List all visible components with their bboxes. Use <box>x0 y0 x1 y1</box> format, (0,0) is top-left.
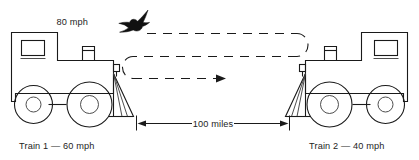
train-left-cowcatcher <box>114 74 134 117</box>
train-left-front-wheel-hub <box>81 96 99 114</box>
distance-arrowhead-right <box>280 120 289 126</box>
train-right-cab-window <box>375 41 398 56</box>
distance-label: 100 miles <box>193 119 234 129</box>
train-left-smokestack <box>83 47 95 61</box>
train-left-group <box>12 33 134 128</box>
train-right-front-wheel <box>307 82 352 127</box>
train-right-cab-outline <box>306 33 408 102</box>
train-left-front-wheel <box>67 82 112 127</box>
train-right-cowcatcher <box>286 74 306 117</box>
train-right-group <box>286 33 408 128</box>
train-right-label: Train 2 — 40 mph <box>309 141 385 151</box>
train-bird-diagram: 100 miles 80 mph Train 1 — 60 mph Train … <box>0 0 419 160</box>
flight-path-left-turn <box>123 57 134 79</box>
train-right-coupler <box>300 65 306 72</box>
train-left-label: Train 1 — 60 mph <box>19 141 95 151</box>
bird-silhouette-icon <box>119 10 150 32</box>
flight-path-arrowhead <box>216 75 226 83</box>
bird-speed-label: 80 mph <box>56 17 88 27</box>
train-right-rear-wheel <box>367 86 405 124</box>
train-right-rear-wheel-hub <box>378 97 393 112</box>
train-right-smokestack <box>325 47 337 61</box>
train-left-coupler <box>114 65 120 72</box>
distance-arrowhead-left <box>138 120 147 126</box>
train-left-cab-window <box>22 41 45 56</box>
train-left-rear-wheel <box>15 86 53 124</box>
diagram-canvas: 100 miles 80 mph Train 1 — 60 mph Train … <box>0 0 419 160</box>
train-left-cab-outline <box>12 33 114 102</box>
bird-flight-path-dashed <box>123 34 309 83</box>
train-left-rear-wheel-hub <box>26 97 41 112</box>
flight-path-right-turn <box>297 34 308 57</box>
train-right-front-wheel-hub <box>321 96 339 114</box>
